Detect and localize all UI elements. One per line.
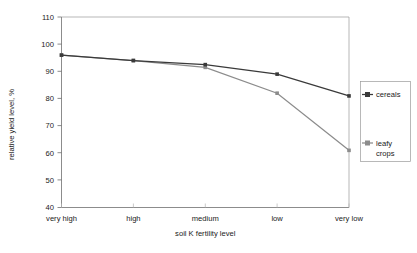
x-axis-title: soil K fertility level — [175, 229, 236, 238]
data-point-marker — [347, 94, 351, 98]
y-tick-label: 90 — [46, 67, 54, 76]
y-tick-label: 100 — [41, 40, 54, 49]
plot-frame — [62, 17, 350, 208]
data-point-marker — [275, 72, 279, 76]
x-axis-ticks — [62, 204, 350, 208]
x-tick-label-medium: medium — [192, 214, 219, 223]
y-tick-label: 80 — [46, 94, 54, 103]
data-point-marker — [347, 149, 351, 153]
data-point-marker — [275, 91, 279, 95]
y-tick-label: 110 — [42, 13, 54, 22]
series-leafy-crops — [60, 53, 351, 152]
x-tick-label-very-low: very low — [335, 214, 363, 223]
yield-vs-soil-k-line-chart: 110 100 90 80 70 60 50 40 relative yield… — [0, 0, 417, 253]
legend-marker-cereals — [365, 92, 370, 97]
x-tick-label-low: low — [271, 214, 283, 223]
y-axis-title: relative yield level, % — [7, 89, 16, 160]
legend-label-leafy-crops-line2: crops — [376, 149, 395, 158]
legend-label-cereals: cereals — [376, 90, 401, 99]
data-point-marker — [132, 59, 136, 63]
x-tick-label-very-high: very high — [46, 214, 77, 223]
legend-item-cereals[interactable]: cereals — [362, 90, 401, 99]
y-axis-tick-labels: 110 100 90 80 70 60 50 40 — [41, 13, 54, 213]
y-tick-label: 70 — [46, 121, 54, 130]
series-cereals — [60, 53, 351, 97]
chart-legend: cereals leafy crops — [361, 82, 411, 162]
x-axis-category-labels: very high high medium low very low — [46, 214, 363, 223]
y-tick-label: 60 — [46, 149, 54, 158]
legend-marker-leafy-crops — [365, 141, 370, 146]
y-axis-ticks — [58, 17, 62, 208]
x-tick-label-high: high — [126, 214, 140, 223]
data-point-marker — [203, 63, 207, 67]
y-tick-label: 50 — [46, 176, 54, 185]
data-point-marker — [60, 53, 64, 57]
y-tick-label: 40 — [46, 203, 54, 212]
legend-item-leafy-crops[interactable]: leafy crops — [362, 139, 395, 158]
chart-container: 110 100 90 80 70 60 50 40 relative yield… — [0, 0, 417, 253]
legend-label-leafy-crops-line1: leafy — [376, 139, 392, 148]
